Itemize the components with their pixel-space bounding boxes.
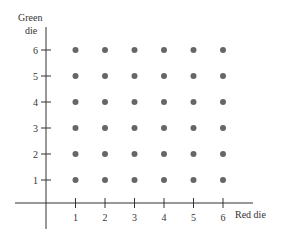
data-point [161,47,167,53]
data-point [220,151,226,157]
data-point [191,125,197,131]
y-axis-label-line1: Green [18,12,42,23]
data-points [73,47,227,183]
y-tick-label: 3 [33,123,38,134]
dice-outcome-chart: 123456 123456 Green die Red die [0,0,282,240]
data-point [132,47,138,53]
data-point [220,73,226,79]
data-point [102,47,108,53]
data-point [191,177,197,183]
x-tick-label: 1 [73,212,78,223]
x-tick-label: 2 [103,212,108,223]
x-tick-label: 3 [132,212,137,223]
data-point [220,177,226,183]
data-point [73,177,79,183]
data-point [191,151,197,157]
y-tick-label: 4 [33,97,38,108]
data-point [132,151,138,157]
data-point [102,177,108,183]
data-point [220,125,226,131]
data-point [132,99,138,105]
data-point [161,151,167,157]
data-point [102,99,108,105]
data-point [73,47,79,53]
x-ticks: 123456 [73,198,226,223]
data-point [220,99,226,105]
data-point [161,125,167,131]
data-point [220,47,226,53]
data-point [102,125,108,131]
y-tick-label: 6 [33,45,38,56]
data-point [132,177,138,183]
data-point [73,125,79,131]
y-tick-label: 5 [33,71,38,82]
x-tick-label: 4 [162,212,167,223]
x-tick-label: 6 [221,212,226,223]
x-axis-label: Red die [235,209,266,220]
data-point [161,177,167,183]
data-point [102,151,108,157]
data-point [191,99,197,105]
data-point [191,47,197,53]
y-ticks: 123456 [33,45,51,186]
data-point [161,73,167,79]
data-point [102,73,108,79]
data-point [132,73,138,79]
y-axis-label-line2: die [25,25,38,36]
data-point [191,73,197,79]
y-tick-label: 1 [33,175,38,186]
data-point [73,151,79,157]
data-point [132,125,138,131]
data-point [161,99,167,105]
data-point [73,99,79,105]
y-tick-label: 2 [33,149,38,160]
x-tick-label: 5 [191,212,196,223]
data-point [73,73,79,79]
